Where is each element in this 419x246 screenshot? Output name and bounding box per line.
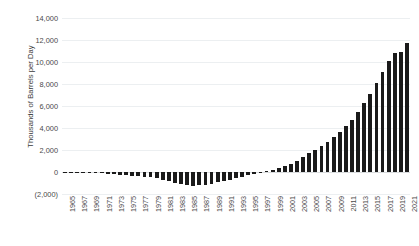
bar bbox=[81, 172, 85, 173]
bar bbox=[69, 172, 73, 173]
x-tick-label: 2013 bbox=[361, 196, 370, 212]
x-tick-label: 2015 bbox=[373, 196, 382, 212]
bar bbox=[332, 137, 336, 172]
bar bbox=[130, 172, 134, 176]
y-tick-label: 2,000 bbox=[40, 146, 59, 155]
x-tick-label: 1993 bbox=[239, 196, 248, 212]
x-tick-label: 1999 bbox=[276, 196, 285, 212]
bar bbox=[118, 172, 122, 175]
x-tick-label: 1969 bbox=[92, 196, 101, 212]
x-tick-label: 1985 bbox=[190, 196, 199, 212]
y-tick-label: 8,000 bbox=[40, 80, 59, 89]
x-tick-label: 1995 bbox=[251, 196, 260, 212]
y-tick-label: 4,000 bbox=[40, 124, 59, 133]
bar bbox=[149, 172, 153, 177]
x-tick-label: 1979 bbox=[154, 196, 163, 212]
bar bbox=[94, 172, 98, 173]
bar bbox=[393, 53, 397, 172]
x-tick-label: 2007 bbox=[324, 196, 333, 212]
bar bbox=[106, 172, 110, 174]
bars-layer bbox=[62, 18, 410, 194]
bar bbox=[75, 172, 79, 173]
bar bbox=[350, 120, 354, 172]
bar bbox=[265, 171, 269, 172]
bar bbox=[271, 170, 275, 172]
x-tick-label: 1971 bbox=[105, 196, 114, 212]
x-tick-label: 1965 bbox=[68, 196, 77, 212]
bar bbox=[143, 172, 147, 177]
bar bbox=[88, 172, 92, 173]
gridline--2000: (2,000) bbox=[62, 194, 410, 195]
bar bbox=[210, 172, 214, 184]
x-tick-label: 1987 bbox=[202, 196, 211, 212]
y-tick-label: (2,000) bbox=[35, 190, 58, 199]
bar bbox=[204, 172, 208, 185]
bar bbox=[277, 168, 281, 172]
bar bbox=[155, 172, 159, 178]
bar bbox=[240, 172, 244, 177]
bar bbox=[362, 103, 366, 172]
bar bbox=[301, 157, 305, 172]
bar bbox=[185, 172, 189, 185]
bar bbox=[356, 112, 360, 172]
y-tick-label: 6,000 bbox=[40, 102, 59, 111]
x-tick-label: 1991 bbox=[227, 196, 236, 212]
bar bbox=[307, 153, 311, 172]
bar bbox=[167, 172, 171, 181]
x-tick-label: 1981 bbox=[166, 196, 175, 212]
y-axis-title: Thousands of Barrels per Day bbox=[26, 7, 35, 187]
bar bbox=[216, 172, 220, 182]
x-axis-tick-labels: 1965196719691971197319751977197919811983… bbox=[62, 196, 410, 246]
bar bbox=[368, 94, 372, 172]
bar bbox=[289, 164, 293, 172]
y-tick-label: 14,000 bbox=[35, 14, 58, 23]
x-tick-label: 1977 bbox=[141, 196, 150, 212]
bar bbox=[387, 61, 391, 172]
x-tick-label: 1997 bbox=[263, 196, 272, 212]
x-tick-label: 1989 bbox=[215, 196, 224, 212]
x-tick-label: 1973 bbox=[117, 196, 126, 212]
y-tick-label: 12,000 bbox=[35, 36, 58, 45]
x-tick-label: 2017 bbox=[386, 196, 395, 212]
x-tick-label: 2005 bbox=[312, 196, 321, 212]
bar bbox=[375, 83, 379, 172]
bar bbox=[100, 172, 104, 173]
bar bbox=[197, 172, 201, 185]
bar bbox=[63, 172, 67, 173]
bar bbox=[338, 132, 342, 172]
x-tick-label: 2011 bbox=[349, 196, 358, 211]
bar bbox=[259, 172, 263, 173]
bar bbox=[405, 43, 409, 172]
bar bbox=[191, 172, 195, 186]
y-tick-label: 0 bbox=[54, 168, 58, 177]
x-tick-label: 1967 bbox=[80, 196, 89, 212]
bar bbox=[222, 172, 226, 181]
bar bbox=[399, 52, 403, 172]
bar bbox=[112, 172, 116, 174]
bar bbox=[313, 150, 317, 172]
x-tick-label: 1975 bbox=[129, 196, 138, 212]
plot-area: 14,00012,00010,0008,0006,0004,0002,0000(… bbox=[62, 18, 410, 194]
bar bbox=[381, 72, 385, 172]
bar bbox=[252, 172, 256, 174]
x-tick-label: 2009 bbox=[337, 196, 346, 212]
bar bbox=[179, 172, 183, 184]
bar bbox=[344, 126, 348, 172]
bar bbox=[173, 172, 177, 183]
y-tick-label: 10,000 bbox=[35, 58, 58, 67]
bar bbox=[320, 146, 324, 172]
bar bbox=[228, 172, 232, 180]
bar bbox=[124, 172, 128, 175]
bar bbox=[136, 172, 140, 176]
bar bbox=[246, 172, 250, 175]
bar bbox=[326, 142, 330, 172]
bar bbox=[234, 172, 238, 178]
bar bbox=[283, 166, 287, 172]
x-tick-label: 2001 bbox=[288, 196, 297, 212]
bar bbox=[295, 161, 299, 172]
x-tick-label: 2003 bbox=[300, 196, 309, 212]
x-tick-label: 2019 bbox=[398, 196, 407, 212]
x-tick-label: 2021 bbox=[410, 196, 419, 212]
bar bbox=[161, 172, 165, 180]
